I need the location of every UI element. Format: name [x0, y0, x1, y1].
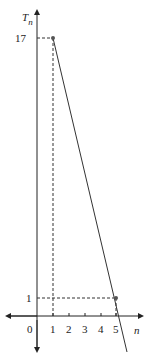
y-tick-17: 17	[15, 32, 27, 44]
x-tick-3: 3	[82, 323, 88, 335]
sequence-chart: Tn 17 1 0 1 2 3 4 5 n	[0, 0, 151, 357]
x-axis-label: n	[134, 324, 140, 336]
origin-label: 0	[27, 323, 33, 335]
dashed-guides	[37, 38, 116, 316]
x-tick-2: 2	[66, 323, 72, 335]
x-tick-4: 4	[98, 323, 104, 335]
y-axis-label: Tn	[22, 11, 33, 27]
y-tick-1: 1	[26, 292, 32, 304]
data-point-5-1	[114, 296, 118, 300]
x-tick-1: 1	[50, 323, 56, 335]
data-point-1-17	[51, 36, 55, 40]
series-line	[53, 38, 127, 352]
x-tick-5: 5	[113, 323, 119, 335]
